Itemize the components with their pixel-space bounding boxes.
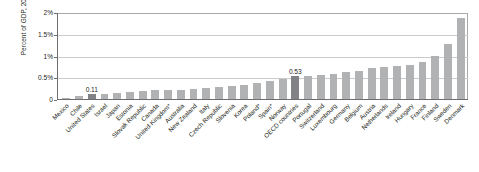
bar[interactable] bbox=[151, 90, 159, 99]
y-tick-label: 1% bbox=[43, 52, 53, 59]
bar[interactable] bbox=[190, 89, 198, 99]
bar-slot bbox=[225, 13, 238, 99]
bar-slot bbox=[264, 13, 277, 99]
bar[interactable] bbox=[240, 85, 248, 99]
bar-slot bbox=[251, 13, 264, 99]
bar[interactable] bbox=[266, 81, 274, 99]
bar-slot bbox=[73, 13, 86, 99]
bar[interactable] bbox=[317, 75, 325, 99]
bar[interactable] bbox=[101, 94, 109, 99]
bar-slot bbox=[442, 13, 455, 99]
x-label-slot: Denmark bbox=[454, 101, 467, 171]
bar-series: 0.110.53 bbox=[59, 13, 468, 99]
y-axis-ticks: 00.5%1%1.5%2% bbox=[0, 13, 57, 100]
bar[interactable] bbox=[342, 72, 350, 99]
bar-value-label: 0.53 bbox=[289, 68, 302, 75]
bar[interactable] bbox=[253, 83, 261, 99]
bar[interactable] bbox=[202, 88, 210, 99]
bar-slot bbox=[276, 13, 289, 99]
bar-value-label: 0.11 bbox=[86, 86, 98, 93]
bar[interactable] bbox=[457, 18, 465, 99]
y-tick-mark bbox=[54, 100, 57, 101]
bar[interactable] bbox=[406, 65, 414, 99]
bar-slot bbox=[416, 13, 429, 99]
bar-slot bbox=[60, 13, 73, 99]
bar[interactable] bbox=[368, 68, 376, 99]
bar[interactable] bbox=[139, 91, 147, 99]
axis-baseline bbox=[58, 99, 468, 100]
bar[interactable] bbox=[215, 87, 223, 99]
bar-slot bbox=[200, 13, 213, 99]
bar-slot: 0.53 bbox=[289, 13, 302, 99]
bar-slot bbox=[314, 13, 327, 99]
bar[interactable] bbox=[62, 98, 70, 99]
bar[interactable] bbox=[88, 94, 96, 99]
bar[interactable] bbox=[355, 71, 363, 99]
plot-area: 0.110.53 bbox=[57, 13, 468, 100]
y-tick-label: 2% bbox=[43, 9, 53, 16]
bar[interactable] bbox=[444, 44, 452, 99]
bar-slot bbox=[213, 13, 226, 99]
bar[interactable] bbox=[228, 86, 236, 99]
bar[interactable] bbox=[304, 76, 312, 99]
bar-slot bbox=[187, 13, 200, 99]
bar[interactable] bbox=[330, 74, 338, 99]
bar[interactable] bbox=[291, 76, 299, 99]
bar-slot bbox=[238, 13, 251, 99]
bar-slot bbox=[403, 13, 416, 99]
bar[interactable] bbox=[380, 67, 388, 99]
bar-slot bbox=[98, 13, 111, 99]
bar[interactable] bbox=[393, 66, 401, 99]
bar-slot bbox=[391, 13, 404, 99]
bar-slot bbox=[327, 13, 340, 99]
bar[interactable] bbox=[113, 93, 121, 99]
bar-slot bbox=[124, 13, 137, 99]
bar-slot bbox=[162, 13, 175, 99]
bar[interactable] bbox=[431, 56, 439, 99]
bar[interactable] bbox=[419, 62, 427, 99]
bar-slot bbox=[340, 13, 353, 99]
y-tick-label: 1.5% bbox=[38, 31, 53, 38]
bar[interactable] bbox=[126, 92, 134, 99]
x-axis-labels: MexicoChileUnited StatesIsraelJapanEston… bbox=[58, 101, 468, 171]
bar-slot: 0.11 bbox=[85, 13, 98, 99]
bar-slot bbox=[302, 13, 315, 99]
bar-slot bbox=[136, 13, 149, 99]
bar[interactable] bbox=[75, 96, 83, 99]
bar-slot bbox=[378, 13, 391, 99]
bar-chart: Percent of GDP, 2014 00.5%1%1.5%2% 0.110… bbox=[0, 0, 479, 172]
bar[interactable] bbox=[177, 90, 185, 99]
bar-slot bbox=[353, 13, 366, 99]
bar-slot bbox=[149, 13, 162, 99]
bar-slot bbox=[429, 13, 442, 99]
bar-slot bbox=[111, 13, 124, 99]
bar-slot bbox=[174, 13, 187, 99]
bar[interactable] bbox=[279, 79, 287, 99]
bar-slot bbox=[365, 13, 378, 99]
bar[interactable] bbox=[164, 90, 172, 99]
bar-slot bbox=[454, 13, 467, 99]
y-tick-label: 0 bbox=[49, 96, 53, 103]
y-tick-label: 0.5% bbox=[38, 74, 53, 81]
